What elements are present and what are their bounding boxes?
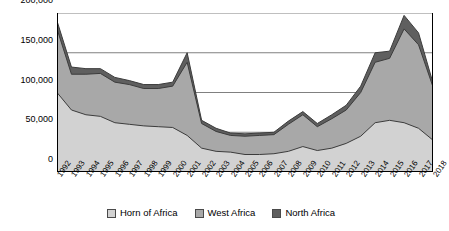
y-axis-tick-label: 150,000	[1, 36, 53, 45]
chart-legend: Horn of AfricaWest AfricaNorth Africa	[0, 208, 442, 218]
legend-swatch-icon	[195, 209, 204, 218]
y-axis-tick-label: 0	[1, 155, 53, 164]
legend-item[interactable]: Horn of Africa	[107, 208, 178, 218]
x-axis: 1992199319941995199619971998199920002001…	[57, 174, 437, 208]
y-axis-tick-label: 100,000	[1, 76, 53, 85]
x-axis-tick-label: 2018	[432, 159, 449, 178]
stacked-area-chart	[57, 13, 433, 172]
y-axis-tick-label: 50,000	[1, 115, 53, 124]
legend-label: Horn of Africa	[120, 208, 178, 218]
legend-label: North Africa	[285, 208, 335, 218]
plot-area	[57, 13, 433, 172]
y-axis: 050,000100,000150,000200,000	[0, 0, 53, 185]
y-axis-tick-label: 200,000	[1, 0, 53, 5]
legend-item[interactable]: North Africa	[272, 208, 335, 218]
legend-swatch-icon	[107, 209, 116, 218]
legend-item[interactable]: West Africa	[195, 208, 256, 218]
legend-swatch-icon	[272, 209, 281, 218]
legend-label: West Africa	[208, 208, 256, 218]
area-series-group	[57, 15, 433, 172]
